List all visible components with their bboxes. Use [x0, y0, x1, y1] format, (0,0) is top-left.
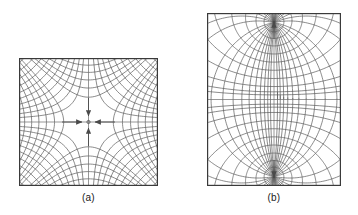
equipotential-curve — [34, 38, 143, 58]
panel-b-diagram — [207, 13, 341, 186]
pole-top-marker — [273, 21, 276, 24]
pole-bottom-marker — [273, 176, 276, 179]
field-map-figure: (a) (b) — [0, 0, 358, 215]
equipotential-curve — [0, 68, 18, 177]
panel-a-diagram — [19, 58, 158, 186]
panel-a-caption: (a) — [19, 192, 158, 203]
equipotential-curve — [0, 92, 4, 151]
panel-b-caption: (b) — [207, 192, 341, 203]
equipotential-curve — [159, 68, 178, 177]
equipotential-curve — [58, 38, 121, 44]
equipotential-curve — [166, 79, 177, 166]
equipotential-curve — [45, 38, 134, 51]
equipotential-arc — [333, 0, 334, 2]
equipotential-curve — [0, 79, 11, 166]
equipotential-curve — [173, 92, 178, 151]
panel-a — [19, 58, 158, 186]
equipotential-arc — [309, 0, 316, 12]
panel-b — [207, 13, 341, 186]
